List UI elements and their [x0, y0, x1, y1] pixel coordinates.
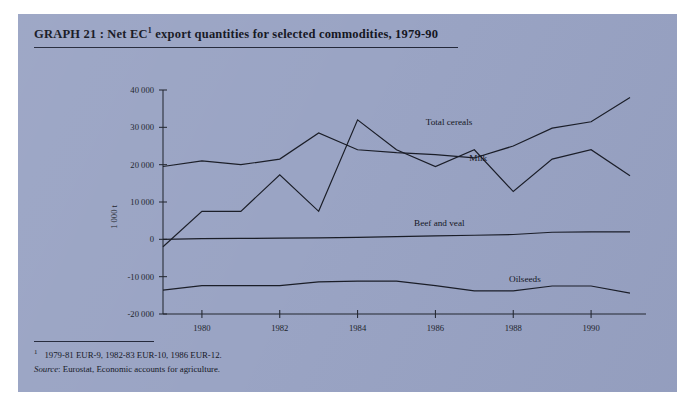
- axis-lines: [163, 90, 646, 314]
- footnote-line: 11979-81 EUR-9, 1982-83 EUR-10, 1986 EUR…: [34, 346, 594, 361]
- y-tick-label: 10 000: [130, 197, 154, 207]
- series-line-total-cereals: [163, 120, 630, 247]
- y-tick-label: -10 000: [128, 272, 155, 282]
- y-tick-label: -20 000: [128, 309, 155, 319]
- series-label-milk: Milk: [469, 153, 487, 163]
- footnote-text: 1979-81 EUR-9, 1982-83 EUR-10, 1986 EUR-…: [44, 350, 221, 360]
- x-axis-ticks: 198019821984198619881990: [193, 310, 599, 333]
- chart-panel: GRAPH 21 : Net EC1 export quantities for…: [18, 14, 677, 392]
- series-label-beef-and-veal: Beef and veal: [414, 218, 465, 228]
- series-line-beef-and-veal: [163, 232, 630, 239]
- y-axis-label: 1 000 t: [109, 204, 119, 228]
- series-line-oilseeds: [163, 281, 630, 293]
- y-tick-label: 20 000: [130, 160, 154, 170]
- x-tick-label: 1986: [427, 323, 445, 333]
- source-text: : Eurostat, Economic accounts for agricu…: [58, 364, 220, 374]
- source-label: Source: [34, 364, 58, 374]
- plot-area: 40 00030 00020 00010 0000-10 000-20 000 …: [18, 14, 677, 392]
- footnote-block: 11979-81 EUR-9, 1982-83 EUR-10, 1986 EUR…: [34, 341, 594, 375]
- x-tick-label: 1990: [582, 323, 599, 333]
- y-tick-label: 40 000: [130, 85, 154, 95]
- series-label-oilseeds: Oilseeds: [509, 274, 541, 284]
- source-line: Source: Eurostat, Economic accounts for …: [34, 363, 594, 375]
- x-tick-label: 1980: [193, 323, 210, 333]
- y-tick-label: 0: [150, 234, 154, 244]
- chart-svg: 40 00030 00020 00010 0000-10 000-20 000 …: [18, 14, 677, 392]
- footnote-divider: [34, 341, 154, 342]
- series-line-milk: [163, 97, 630, 166]
- x-tick-label: 1988: [505, 323, 522, 333]
- y-tick-label: 30 000: [130, 122, 154, 132]
- x-tick-label: 1982: [271, 323, 288, 333]
- series-label-total-cereals: Total cereals: [426, 117, 473, 127]
- graph-figure: GRAPH 21 : Net EC1 export quantities for…: [0, 0, 695, 409]
- y-axis-ticks: 40 00030 00020 00010 0000-10 000-20 000: [128, 85, 168, 319]
- x-tick-label: 1984: [349, 323, 367, 333]
- data-series-group: [163, 97, 630, 293]
- footnote-marker: 1: [34, 348, 37, 355]
